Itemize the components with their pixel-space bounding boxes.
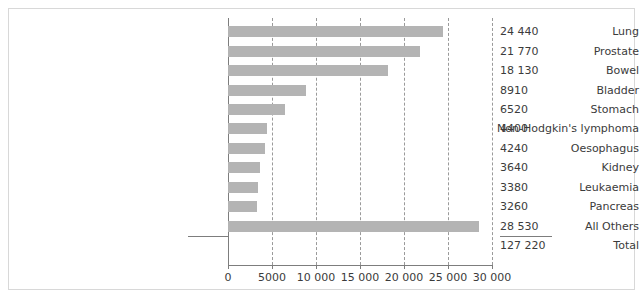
category-label: Oesophagus xyxy=(419,142,643,155)
category-label: Pancreas xyxy=(419,200,643,213)
value-label: 28 530 xyxy=(500,220,539,233)
category-label: Non-Hodgkin's lymphoma xyxy=(419,122,643,135)
value-label: 24 440 xyxy=(500,25,539,38)
x-tick-label: 15 000 xyxy=(341,271,380,284)
category-label: Stomach xyxy=(419,103,643,116)
x-tick-label: 10 000 xyxy=(297,271,336,284)
x-tick-label: 20 000 xyxy=(385,271,424,284)
category-label: Bladder xyxy=(419,84,643,97)
bar xyxy=(228,65,388,76)
bar xyxy=(228,143,265,154)
total-separator-left xyxy=(188,236,228,237)
bar xyxy=(228,85,306,96)
bar xyxy=(228,123,267,134)
x-tick-label: 0 xyxy=(225,271,232,284)
bar xyxy=(228,162,260,173)
total-separator-right xyxy=(500,236,552,237)
bar xyxy=(228,26,443,37)
x-tick-label: 30 000 xyxy=(473,271,512,284)
value-label: 4400 xyxy=(500,122,528,135)
x-tick-mark xyxy=(492,265,493,269)
bar xyxy=(228,46,420,57)
bar xyxy=(228,182,258,193)
x-tick-mark xyxy=(228,265,229,269)
plot-area: LungProstateBowelBladderStomachNon-Hodgk… xyxy=(0,0,643,298)
value-label: 4240 xyxy=(500,142,528,155)
bar xyxy=(228,104,285,115)
x-tick-mark xyxy=(448,265,449,269)
value-label: 18 130 xyxy=(500,64,539,77)
category-label: Leukaemia xyxy=(419,181,643,194)
category-label: Kidney xyxy=(419,161,643,174)
x-axis-line xyxy=(228,265,493,266)
value-label: 8910 xyxy=(500,84,528,97)
value-label: 3380 xyxy=(500,181,528,194)
value-label: 21 770 xyxy=(500,45,539,58)
x-tick-mark xyxy=(360,265,361,269)
x-tick-label: 5000 xyxy=(258,271,286,284)
x-tick-label: 25 000 xyxy=(429,271,468,284)
value-label: 3260 xyxy=(500,200,528,213)
figure: LungProstateBowelBladderStomachNon-Hodgk… xyxy=(0,0,643,298)
value-label: 127 220 xyxy=(500,239,546,252)
bar xyxy=(228,201,257,212)
value-label: 6520 xyxy=(500,103,528,116)
x-tick-mark xyxy=(316,265,317,269)
x-tick-mark xyxy=(272,265,273,269)
value-label: 3640 xyxy=(500,161,528,174)
x-tick-mark xyxy=(404,265,405,269)
